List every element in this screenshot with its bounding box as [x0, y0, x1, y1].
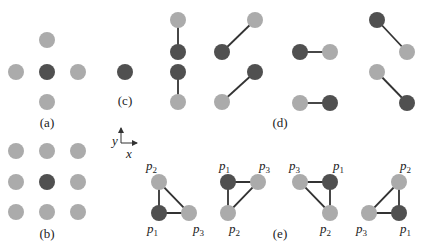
node-p1	[220, 174, 236, 190]
node-light	[247, 12, 263, 28]
triangle-4: p2 p3 p1	[355, 158, 411, 238]
node-light	[8, 64, 24, 80]
node-light	[8, 204, 24, 220]
y-axis-label: y	[110, 133, 118, 148]
node-light	[399, 44, 415, 60]
x-axis-label: x	[125, 146, 132, 161]
node-light	[214, 94, 230, 110]
panel-d-label: (d)	[272, 115, 287, 130]
node-light	[70, 174, 86, 190]
triangle-3: p3 p1 p2	[288, 158, 344, 238]
node-dark	[117, 64, 133, 80]
node-light	[322, 44, 338, 60]
node-p3	[292, 174, 308, 190]
panel-e: p2 p1 p3 p1 p3 p2 p3 p1 p2	[145, 158, 411, 241]
svg-text:p3: p3	[258, 158, 271, 175]
node-p3	[181, 205, 197, 221]
svg-text:p1: p1	[332, 158, 344, 175]
node-dark	[292, 44, 308, 60]
svg-text:p2: p2	[319, 221, 331, 238]
svg-text:p3: p3	[355, 221, 368, 238]
node-p3	[250, 174, 266, 190]
triangle-1: p2 p1 p3	[145, 158, 205, 238]
svg-text:p2: p2	[399, 158, 411, 175]
svg-text:p1: p1	[146, 221, 158, 238]
node-p2	[151, 174, 167, 190]
node-p1	[322, 174, 338, 190]
node-light	[8, 174, 24, 190]
svg-text:p1: p1	[399, 221, 411, 238]
node-dark	[399, 95, 415, 111]
node-p2	[391, 174, 407, 190]
node-p2	[322, 205, 338, 221]
axes-indicator: y x	[110, 128, 137, 161]
node-light	[170, 94, 186, 110]
node-dark	[322, 95, 338, 111]
node-dark	[369, 12, 385, 28]
svg-text:p3: p3	[288, 158, 301, 175]
panel-c: (c)	[117, 12, 263, 110]
node-p2	[220, 205, 236, 221]
node-p1	[391, 205, 407, 221]
node-light	[39, 32, 55, 48]
node-dark	[39, 174, 55, 190]
node-light	[39, 204, 55, 220]
panel-a: (a)	[8, 32, 86, 130]
node-light	[369, 64, 385, 80]
svg-text:p1: p1	[218, 158, 230, 175]
node-p1	[151, 205, 167, 221]
svg-text:p2: p2	[228, 221, 240, 238]
node-light	[292, 95, 308, 111]
node-light	[170, 12, 186, 28]
diagram-figure: (a) (b) (c)	[0, 0, 424, 247]
node-light	[70, 204, 86, 220]
node-light	[39, 94, 55, 110]
node-dark	[170, 64, 186, 80]
node-dark	[247, 64, 263, 80]
panel-b-label: (b)	[39, 226, 54, 241]
panel-b: (b)	[8, 143, 86, 241]
panel-a-label: (a)	[40, 115, 54, 130]
panel-d: (d)	[272, 12, 415, 130]
node-light	[70, 64, 86, 80]
panel-e-label: (e)	[273, 226, 287, 241]
svg-text:p2: p2	[145, 158, 157, 175]
node-light	[70, 143, 86, 159]
panel-c-label: (c)	[118, 93, 132, 108]
node-p3	[361, 205, 377, 221]
node-dark	[214, 44, 230, 60]
node-dark	[39, 64, 55, 80]
node-light	[8, 143, 24, 159]
svg-text:p3: p3	[192, 221, 205, 238]
node-light	[39, 143, 55, 159]
triangle-2: p1 p3 p2	[218, 158, 271, 238]
node-dark	[170, 44, 186, 60]
